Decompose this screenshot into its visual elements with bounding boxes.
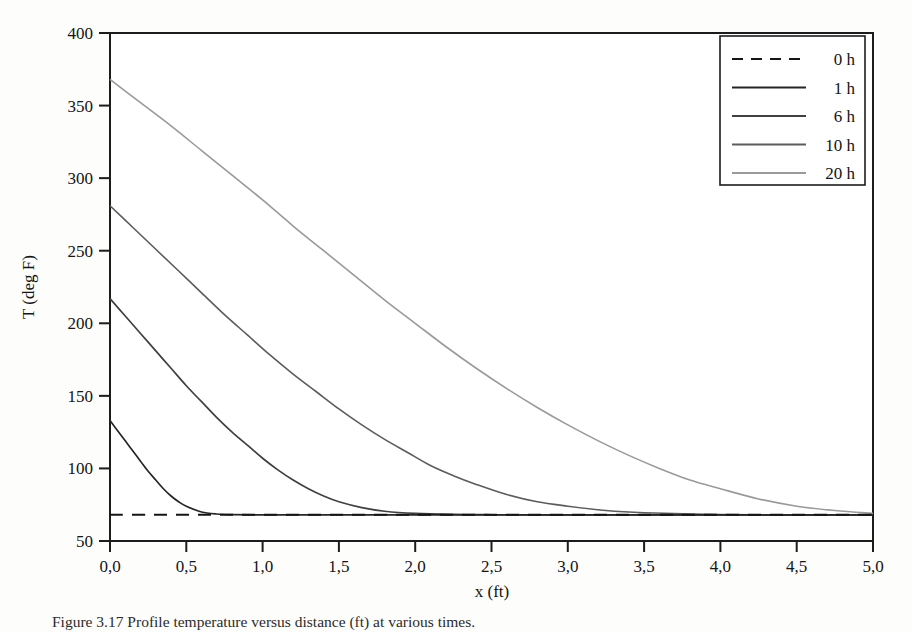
figure-caption: Figure 3.17 Profile temperature versus d… xyxy=(52,612,892,632)
y-tick-label: 250 xyxy=(68,242,94,261)
x-tick-label: 4,0 xyxy=(710,557,731,576)
x-tick-label: 1,0 xyxy=(252,557,273,576)
legend-label: 0 h xyxy=(834,50,856,69)
y-tick-label: 100 xyxy=(68,459,94,478)
legend-label: 10 h xyxy=(825,136,855,155)
x-tick-label: 4,5 xyxy=(786,557,807,576)
x-tick-label: 2,5 xyxy=(481,557,502,576)
y-tick-label: 400 xyxy=(68,24,94,43)
y-tick-label: 200 xyxy=(68,314,94,333)
y-axis-title: T (deg F) xyxy=(19,255,38,319)
x-tick-label: 2,0 xyxy=(405,557,426,576)
x-tick-label: 3,0 xyxy=(557,557,578,576)
x-tick-label: 0,5 xyxy=(176,557,197,576)
y-tick-label: 350 xyxy=(68,97,94,116)
chart-legend: 0 h1 h6 h10 h20 h xyxy=(720,36,865,185)
y-axis-ticks: 50100150200250300350400 xyxy=(68,24,111,551)
x-tick-label: 0,0 xyxy=(99,557,120,576)
x-tick-label: 1,5 xyxy=(328,557,349,576)
x-tick-label: 5,0 xyxy=(862,557,883,576)
chart-canvas: 50100150200250300350400 0,00,51,01,52,02… xyxy=(0,0,912,632)
legend-label: 20 h xyxy=(825,164,855,183)
y-tick-label: 50 xyxy=(76,532,93,551)
x-axis-ticks: 0,00,51,01,52,02,53,03,54,04,55,0 xyxy=(99,541,883,576)
y-tick-label: 300 xyxy=(68,169,94,188)
x-tick-label: 3,5 xyxy=(633,557,654,576)
y-tick-label: 150 xyxy=(68,387,94,406)
legend-label: 6 h xyxy=(834,107,856,126)
x-axis-title: x (ft) xyxy=(475,582,509,601)
figure-container: 50100150200250300350400 0,00,51,01,52,02… xyxy=(0,0,912,632)
legend-label: 1 h xyxy=(834,79,856,98)
